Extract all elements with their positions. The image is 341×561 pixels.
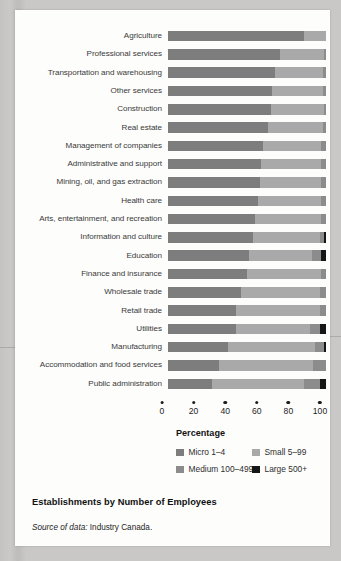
x-axis-tick: 60: [252, 401, 262, 416]
bar-segment: [168, 379, 212, 390]
chart-row: Management of companies: [15, 137, 330, 155]
stacked-bar: [168, 67, 326, 78]
bar-segment: [321, 159, 326, 170]
category-label: Education: [15, 252, 168, 260]
figure-caption: Establishments by Number of Employees: [32, 497, 217, 507]
bar-segment: [324, 49, 326, 60]
tick-dot-icon: [192, 401, 195, 404]
stacked-bar: [168, 324, 326, 335]
bar-segment: [320, 305, 326, 316]
stacked-bar: [168, 287, 326, 298]
bar-segment: [219, 360, 314, 371]
category-label: Information and culture: [15, 233, 168, 241]
stacked-bar: [168, 86, 326, 97]
legend-item: Large 500+: [248, 465, 334, 473]
bar-segment: [324, 104, 326, 115]
bar-segment: [324, 342, 326, 353]
chart-row: Finance and insurance: [15, 265, 330, 283]
chart-rows: AgricultureProfessional servicesTranspor…: [15, 27, 330, 393]
tick-dot-icon: [255, 401, 258, 404]
chart-row: Professional services: [15, 45, 330, 63]
legend-label: Medium 100–499: [189, 465, 254, 473]
bar-segment: [275, 67, 322, 78]
stacked-bar: [168, 49, 326, 60]
chart-row: Public administration: [15, 375, 330, 393]
x-axis-tick: 100: [313, 401, 327, 416]
category-label: Mining, oil, and gas extraction: [15, 178, 168, 186]
bar-segment: [321, 141, 326, 152]
bar-segment: [168, 49, 280, 60]
bar-segment: [241, 287, 320, 298]
legend-label: Large 500+: [265, 465, 308, 473]
bar-segment: [168, 360, 219, 371]
bar-segment: [263, 141, 321, 152]
bar-segment: [304, 379, 320, 390]
category-label: Accommodation and food services: [15, 361, 168, 369]
chart-row: Retail trade: [15, 301, 330, 319]
bar-segment: [321, 196, 326, 207]
legend-swatch: [176, 449, 184, 457]
category-label: Finance and insurance: [15, 270, 168, 278]
x-axis-title: Percentage: [162, 428, 330, 438]
category-label: Public administration: [15, 380, 168, 388]
chart-row: Administrative and support: [15, 155, 330, 173]
bar-segment: [323, 86, 326, 97]
bar-segment: [168, 122, 268, 133]
bar-segment: [304, 31, 326, 42]
category-label: Retail trade: [15, 307, 168, 315]
stacked-bar: [168, 250, 326, 261]
x-axis: 020406080100: [162, 401, 330, 427]
stacked-bar: [168, 122, 326, 133]
x-axis-tick: 20: [189, 401, 199, 416]
category-label: Manufacturing: [15, 343, 168, 351]
chart-row: Real estate: [15, 118, 330, 136]
stacked-bar: [168, 232, 326, 243]
bar-segment: [258, 196, 321, 207]
legend-swatch: [252, 449, 260, 457]
bar-segment: [323, 122, 326, 133]
x-axis-tick: 0: [160, 401, 165, 416]
bar-segment: [323, 67, 326, 78]
bar-segment: [212, 379, 304, 390]
chart-row: Transportation and warehousing: [15, 64, 330, 82]
tick-label: 80: [284, 407, 294, 416]
bar-segment: [280, 49, 324, 60]
stacked-bar: [168, 269, 326, 280]
chart-row: Utilities: [15, 320, 330, 338]
chart-row: Health care: [15, 192, 330, 210]
bar-segment: [312, 250, 321, 261]
legend-label: Micro 1–4: [189, 448, 226, 456]
chart-row: Wholesale trade: [15, 283, 330, 301]
figure-card: AgricultureProfessional servicesTranspor…: [15, 10, 330, 546]
bar-segment: [168, 86, 272, 97]
scanned-page: AgricultureProfessional servicesTranspor…: [0, 0, 341, 561]
bar-segment: [321, 250, 326, 261]
tick-label: 20: [189, 407, 199, 416]
tick-label: 100: [313, 407, 327, 416]
x-axis-tick: 80: [284, 401, 294, 416]
tick-label: 60: [252, 407, 262, 416]
bar-segment: [168, 196, 258, 207]
bar-segment: [236, 324, 310, 335]
bar-segment: [320, 324, 326, 335]
source-prefix: Source of data:: [32, 523, 88, 532]
bar-segment: [255, 214, 321, 225]
source-rest: Industry Canada.: [88, 523, 153, 532]
stacked-bar: [168, 214, 326, 225]
stacked-bar: [168, 379, 326, 390]
tick-dot-icon: [287, 401, 290, 404]
stacked-bar: [168, 177, 326, 188]
bar-segment: [271, 104, 325, 115]
stacked-bar: [168, 159, 326, 170]
bar-segment: [168, 177, 260, 188]
bar-segment: [168, 342, 228, 353]
bar-segment: [168, 232, 253, 243]
stacked-bar: [168, 31, 326, 42]
category-label: Real estate: [15, 124, 168, 132]
chart-row: Information and culture: [15, 228, 330, 246]
category-label: Administrative and support: [15, 160, 168, 168]
bar-segment: [315, 342, 324, 353]
x-axis-tick: 40: [220, 401, 230, 416]
chart-row: Construction: [15, 100, 330, 118]
bar-segment: [249, 250, 312, 261]
